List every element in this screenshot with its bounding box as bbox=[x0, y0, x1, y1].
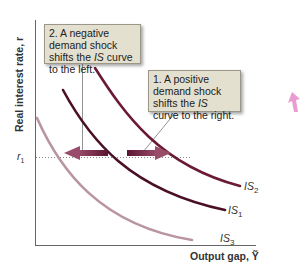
is3-curve bbox=[37, 118, 192, 240]
r1-tick-label: r1 bbox=[17, 150, 24, 164]
is3-label: IS3 bbox=[220, 232, 234, 247]
is2-label: IS2 bbox=[244, 180, 258, 195]
y-axis-label: Real interest rate, r bbox=[13, 37, 25, 132]
is1-label: IS1 bbox=[228, 204, 242, 219]
right-shift-arrow-icon bbox=[127, 146, 171, 160]
callout-negative-shock: 2. A negative demand shock shifts the IS… bbox=[44, 24, 141, 64]
callout-positive-shock: 1. A positive demand shock shifts the IS… bbox=[148, 70, 241, 112]
x-axis-label: Output gap, Ỹ bbox=[190, 250, 259, 262]
margin-pink-arrow-icon bbox=[288, 92, 300, 112]
left-shift-arrow-icon bbox=[64, 146, 108, 160]
